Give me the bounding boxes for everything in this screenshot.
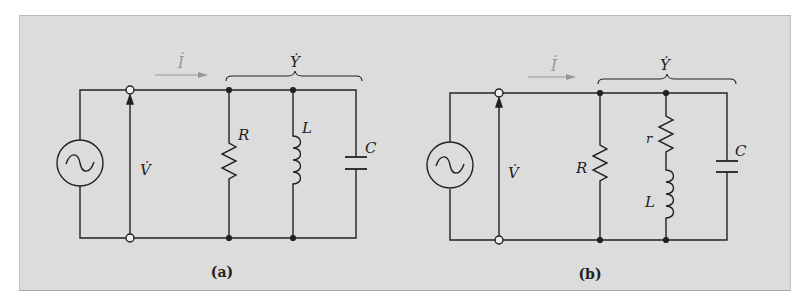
junction-dot <box>598 91 603 96</box>
circuit-a <box>57 71 367 242</box>
admittance-label-b: Ẏ <box>660 56 672 74</box>
resistor-R-b <box>593 93 607 240</box>
terminal-bottom-b <box>495 236 503 244</box>
current-arrowhead-icon <box>566 74 576 80</box>
caption-a: (a) <box>211 264 233 280</box>
voltage-label-a: V̇ <box>140 161 153 179</box>
resistor-label-b: R <box>575 159 587 177</box>
junction-dot <box>291 236 296 241</box>
small-resistor-label-b: r <box>646 131 653 146</box>
caption-b: (b) <box>578 266 601 282</box>
resistor-R-a <box>222 90 236 238</box>
sine-wave-icon <box>436 157 464 173</box>
junction-dot <box>291 88 296 93</box>
resistor-inductor-rL-b <box>659 93 674 240</box>
admittance-label-a: Ẏ <box>290 53 302 71</box>
junction-dot <box>664 238 669 243</box>
bottom-wire-b <box>450 172 727 240</box>
admittance-brace-b <box>598 74 736 84</box>
current-label-b: İ <box>550 55 558 75</box>
arrowhead-icon <box>496 98 502 107</box>
top-wire-a <box>80 90 356 157</box>
junction-dot <box>227 88 232 93</box>
current-label-a: İ <box>177 52 185 72</box>
admittance-brace-a <box>226 71 362 81</box>
terminal-bottom-a <box>126 234 134 242</box>
bottom-wire-a <box>80 169 356 238</box>
junction-dot <box>227 236 232 241</box>
voltage-label-b: V̇ <box>508 164 521 182</box>
capacitor-label-b: C <box>735 142 747 160</box>
inductor-L-a <box>293 90 301 238</box>
current-arrowhead-icon <box>198 72 208 78</box>
circuit-diagrams: İ Ẏ V̇ R L C (a) İ Ẏ V̇ R r L C (b) <box>0 0 806 307</box>
junction-dot <box>598 238 603 243</box>
capacitor-label-a: C <box>365 139 377 157</box>
inductor-label-b: L <box>644 193 655 211</box>
junction-dot <box>664 91 669 96</box>
resistor-label-a: R <box>237 126 249 144</box>
top-wire-b <box>450 93 727 161</box>
inductor-label-a: L <box>301 119 312 137</box>
sine-wave-icon <box>66 155 94 171</box>
arrowhead-icon <box>127 95 133 104</box>
